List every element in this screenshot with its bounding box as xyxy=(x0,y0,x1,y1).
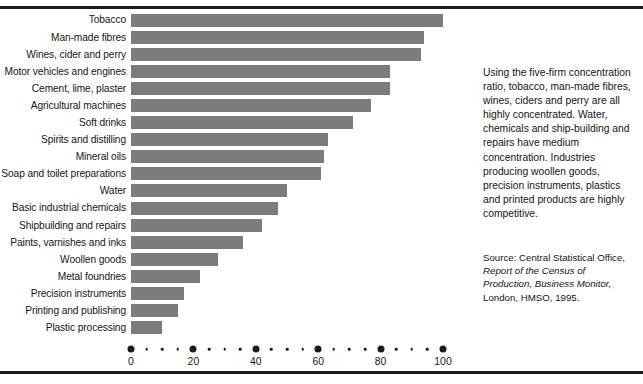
category-label: Agricultural machines xyxy=(0,101,131,111)
bar xyxy=(131,65,390,78)
source-suffix: London, HMSO, 1995. xyxy=(483,292,579,303)
bar xyxy=(131,270,200,283)
chart-row: Water xyxy=(0,183,445,200)
category-label: Water xyxy=(0,186,131,196)
bar-track xyxy=(131,251,445,268)
chart-row: Agricultural machines xyxy=(0,97,445,114)
axis-minor-dot xyxy=(177,348,180,351)
source-prefix: Source: Central Statistical Office, xyxy=(483,252,625,263)
bar xyxy=(131,219,262,232)
chart-row: Precision instruments xyxy=(0,286,445,303)
axis-minor-dot xyxy=(223,348,226,351)
chart-row: Wines, cider and perry xyxy=(0,46,445,63)
axis-major-dot xyxy=(252,346,259,353)
bar xyxy=(131,133,328,146)
category-label: Precision instruments xyxy=(0,289,131,299)
axis-minor-dot xyxy=(208,348,211,351)
axis-minor-dot xyxy=(239,348,242,351)
bar-track xyxy=(131,149,445,166)
axis-minor-dot xyxy=(301,348,304,351)
chart-row: Spirits and distilling xyxy=(0,132,445,149)
bar xyxy=(131,287,184,300)
category-label: Wines, cider and perry xyxy=(0,50,131,60)
x-axis: 020406080100 xyxy=(131,344,443,374)
bar-track xyxy=(131,46,445,63)
axis-minor-dot xyxy=(364,348,367,351)
chart-page: TobaccoMan-made fibresWines, cider and p… xyxy=(0,0,643,384)
axis-major-dot xyxy=(315,346,322,353)
bar-track xyxy=(131,268,445,285)
bar xyxy=(131,48,421,61)
axis-minor-dot xyxy=(145,348,148,351)
bar xyxy=(131,304,178,317)
category-label: Plastic processing xyxy=(0,323,131,333)
bar xyxy=(131,202,278,215)
chart-row: Soft drinks xyxy=(0,115,445,132)
category-label: Mineral oils xyxy=(0,152,131,162)
bar xyxy=(131,82,390,95)
axis-major-dot xyxy=(128,346,135,353)
category-label: Soap and toilet preparations xyxy=(0,169,131,179)
bar-track xyxy=(131,97,445,114)
category-label: Shipbuilding and repairs xyxy=(0,221,131,231)
chart-row: Man-made fibres xyxy=(0,29,445,46)
bar-track xyxy=(131,320,445,337)
bar-track xyxy=(131,166,445,183)
bar xyxy=(131,116,353,129)
top-rule xyxy=(0,6,643,9)
axis-minor-dot xyxy=(411,348,414,351)
axis-major-dot xyxy=(440,346,447,353)
chart-row: Mineral oils xyxy=(0,149,445,166)
bar-track xyxy=(131,234,445,251)
chart-row: Plastic processing xyxy=(0,320,445,337)
category-label: Paints, varnishes and inks xyxy=(0,238,131,248)
axis-tick-label: 80 xyxy=(375,356,387,367)
axis-minor-dot xyxy=(333,348,336,351)
axis-major-dot xyxy=(377,346,384,353)
bar xyxy=(131,253,218,266)
commentary-text: Using the five-firm concentration ratio,… xyxy=(483,66,635,221)
bar xyxy=(131,14,443,27)
horizontal-bar-chart: TobaccoMan-made fibresWines, cider and p… xyxy=(0,12,445,360)
bar-track xyxy=(131,183,445,200)
axis-minor-dot xyxy=(286,348,289,351)
chart-row: Shipbuilding and repairs xyxy=(0,217,445,234)
bar-track xyxy=(131,63,445,80)
chart-row: Cement, lime, plaster xyxy=(0,80,445,97)
chart-row: Woollen goods xyxy=(0,251,445,268)
bar xyxy=(131,321,162,334)
category-label: Metal foundries xyxy=(0,272,131,282)
bar-track xyxy=(131,132,445,149)
axis-tick-label: 60 xyxy=(312,356,324,367)
axis-minor-dot xyxy=(270,348,273,351)
bar xyxy=(131,150,324,163)
chart-row: Printing and publishing xyxy=(0,303,445,320)
category-label: Man-made fibres xyxy=(0,33,131,43)
bar xyxy=(131,167,321,180)
chart-row: Motor vehicles and engines xyxy=(0,63,445,80)
chart-row: Soap and toilet preparations xyxy=(0,166,445,183)
axis-minor-dot xyxy=(348,348,351,351)
axis-tick-label: 20 xyxy=(188,356,200,367)
bar-track xyxy=(131,217,445,234)
source-citation: Source: Central Statistical Office, Repo… xyxy=(483,251,635,304)
category-label: Soft drinks xyxy=(0,118,131,128)
axis-minor-dot xyxy=(426,348,429,351)
bar-track xyxy=(131,29,445,46)
category-label: Spirits and distilling xyxy=(0,135,131,145)
source-title: Report of the Census of Production, Busi… xyxy=(483,265,611,289)
category-label: Motor vehicles and engines xyxy=(0,67,131,77)
bar-track xyxy=(131,80,445,97)
category-label: Cement, lime, plaster xyxy=(0,84,131,94)
bar-track xyxy=(131,200,445,217)
bar xyxy=(131,31,424,44)
axis-tick-label: 0 xyxy=(128,356,134,367)
axis-major-dot xyxy=(190,346,197,353)
bar-track xyxy=(131,115,445,132)
bar xyxy=(131,184,287,197)
category-label: Printing and publishing xyxy=(0,306,131,316)
chart-row: Tobacco xyxy=(0,12,445,29)
axis-tick-label: 40 xyxy=(250,356,262,367)
axis-tick-label: 100 xyxy=(434,356,451,367)
bar xyxy=(131,236,243,249)
